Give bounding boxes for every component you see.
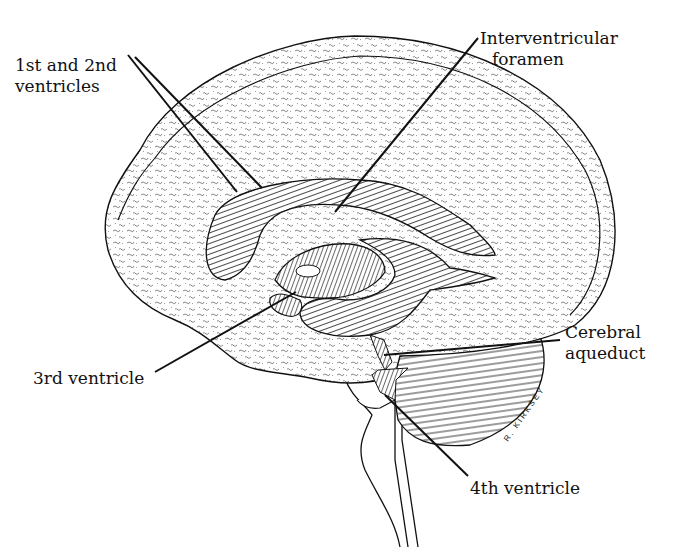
label-interventricular-foramen: Interventricular foramen [480,28,618,70]
label-lateral-line2: ventricles [15,76,117,97]
label-interventricular-line2: foramen [480,49,618,70]
label-lateral-line1: 1st and 2nd [15,55,117,76]
label-lateral-ventricles: 1st and 2nd ventricles [15,55,117,97]
label-aqueduct-line2: aqueduct [565,343,645,364]
label-cerebral-aqueduct: Cerebral aqueduct [565,322,645,364]
label-third-ventricle: 3rd ventricle [33,368,144,389]
brain-ventricles-diagram: 1st and 2nd ventricles Interventricular … [0,0,677,547]
label-third-line1: 3rd ventricle [33,368,144,389]
label-fourth-ventricle: 4th ventricle [470,478,580,499]
label-interventricular-line1: Interventricular [480,28,618,49]
label-aqueduct-line1: Cerebral [565,322,645,343]
label-fourth-line1: 4th ventricle [470,478,580,499]
